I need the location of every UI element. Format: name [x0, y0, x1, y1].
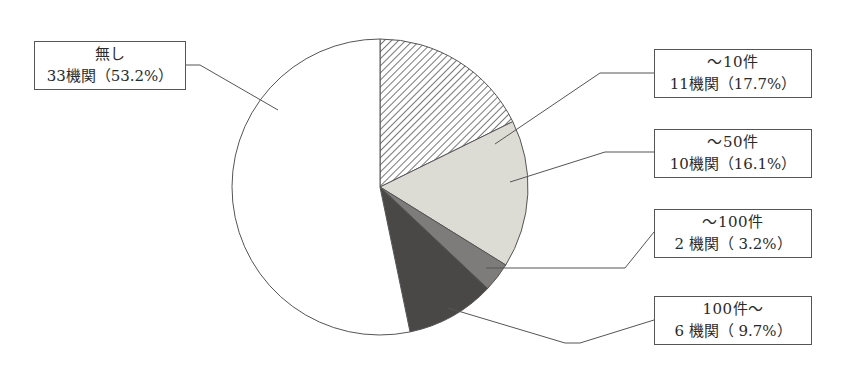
connector-upto50 [510, 152, 654, 182]
label-category: 100件～ [655, 298, 811, 320]
connector-upto10 [495, 73, 654, 144]
label-category: ～100件 [655, 211, 811, 233]
label-count: 33機関（53.2%） [35, 65, 185, 87]
label-box-upto50: ～50件 10機関（16.1%） [654, 129, 812, 178]
label-count: 6 機関（ 9.7%） [655, 320, 811, 342]
pie-slices [232, 39, 528, 335]
connector-over100 [448, 308, 654, 343]
label-category: ～10件 [655, 51, 811, 73]
label-box-upto10: ～10件 11機関（17.7%） [654, 49, 812, 98]
label-box-over100: 100件～ 6 機関（ 9.7%） [654, 296, 812, 345]
label-category: 無し [35, 43, 185, 65]
label-count: 2 機関（ 3.2%） [655, 233, 811, 255]
label-category: ～50件 [655, 131, 811, 153]
label-count: 10機関（16.1%） [655, 153, 811, 175]
label-count: 11機関（17.7%） [655, 73, 811, 95]
label-box-upto100: ～100件 2 機関（ 3.2%） [654, 209, 812, 258]
label-box-none: 無し 33機関（53.2%） [34, 41, 186, 90]
